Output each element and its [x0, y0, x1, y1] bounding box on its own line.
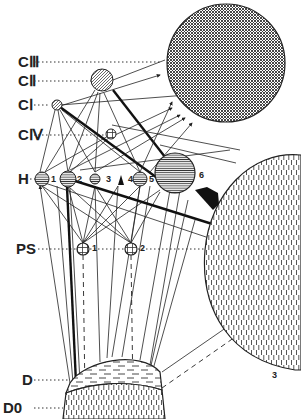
node-ciii[interactable]: [167, 4, 285, 122]
node-ps-2[interactable]: [125, 243, 137, 255]
node-ps-1[interactable]: [77, 243, 89, 255]
node-ps-1-label: 1: [92, 243, 97, 253]
connection-line: [83, 186, 140, 243]
connection-line: [150, 220, 195, 380]
node-civ[interactable]: [106, 129, 116, 139]
node-h-5-label: 5: [149, 174, 154, 184]
flow-diagram: CⅢ CⅡ CⅠ CⅣ H PS D D0: [0, 0, 301, 419]
node-h-4-label: 4: [128, 174, 133, 184]
level-label-civ: CⅣ: [18, 126, 44, 143]
level-label-h: H: [18, 170, 29, 187]
connection-line: [113, 60, 165, 80]
large-compartment-3[interactable]: [204, 155, 301, 370]
connection-line: [58, 110, 68, 172]
node-ps-2-label: 2: [140, 243, 145, 253]
connection-line: [83, 186, 95, 243]
node-h-6-label: 6: [199, 170, 204, 180]
connection-line: [40, 186, 70, 383]
connection-line-dashed: [162, 335, 238, 388]
large-compartment-label: 3: [272, 370, 277, 380]
level-label-ci: CⅠ: [18, 96, 33, 113]
node-cii[interactable]: [91, 69, 113, 91]
connection-line: [162, 325, 230, 372]
connection-line: [83, 190, 160, 243]
compartment-d0[interactable]: [63, 384, 165, 419]
connection-line: [80, 150, 230, 170]
connection-line: [42, 186, 83, 243]
level-label-cii: CⅡ: [18, 72, 36, 89]
h-row-nodes: 1 2 3 4 5 6: [35, 153, 204, 193]
arrow-icon: [118, 175, 124, 185]
level-label-d: D: [22, 371, 33, 388]
node-h-6[interactable]: [155, 153, 195, 193]
connection-line: [150, 200, 188, 370]
node-h-2[interactable]: [60, 171, 76, 187]
connection-line: [45, 183, 215, 240]
connection-line: [112, 125, 240, 150]
connection-line-bold: [60, 107, 160, 180]
node-ci[interactable]: [52, 100, 62, 110]
bold-arrow-icon: [195, 187, 219, 210]
node-h-1-label: 1: [51, 174, 56, 184]
level-label-d0: D0: [3, 399, 22, 416]
level-label-ps: PS: [16, 240, 36, 257]
node-h-2-label: 2: [77, 174, 82, 184]
connection-line-bold: [72, 180, 225, 228]
node-h-3[interactable]: [90, 174, 100, 184]
node-h-5[interactable]: [133, 172, 147, 186]
node-h-3-label: 3: [106, 174, 111, 184]
level-label-ciii: CⅢ: [18, 53, 39, 70]
node-h-1[interactable]: [35, 172, 49, 186]
